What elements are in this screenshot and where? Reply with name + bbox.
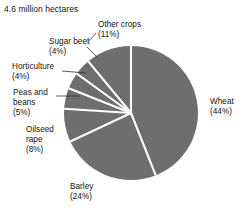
- slice-label-oilseed-rape: Oilseed rape (8%): [26, 125, 54, 156]
- slice-label-other-crops: Other crops (11%): [98, 20, 141, 40]
- slice-label-barley: Barley (24%): [70, 182, 93, 202]
- slice-label-horticulture: Horticulture (4%): [12, 62, 54, 82]
- slice-label-peas-and-beans: Peas and beans (5%): [13, 88, 48, 119]
- slice-label-wheat: Wheat (44%): [210, 97, 234, 117]
- pie-chart-figure: 4.6 million hectares Other cr: [0, 0, 244, 218]
- slice-label-sugar-beet: Sugar beet (4%): [49, 37, 89, 57]
